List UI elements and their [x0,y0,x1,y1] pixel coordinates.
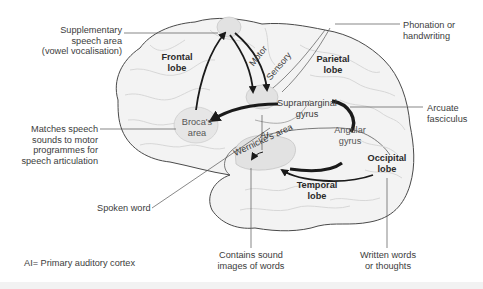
legend-ai: AI= Primary auditory cortex [24,258,135,269]
label-supramarginal-gyrus: Supramarginal gyrus [274,98,340,119]
callout-spoken-word: Spoken word [97,203,151,214]
callout-line: Arcuate [427,103,467,114]
callout-written: Written words or thoughts [352,250,424,271]
callout-line: sounds to motor [5,135,98,146]
callout-supplementary: Supplementary speech area (vowel vocalis… [40,25,122,57]
label-broca-area: Broca's area [172,117,222,138]
callout-line: Written words [352,250,424,261]
label-frontal-lobe: Frontal lobe [152,52,202,73]
label-occipital-lobe: Occipital lobe [362,153,412,174]
callout-line: Phonation or [403,20,455,31]
label-parietal-lobe: Parietal lobe [308,54,358,75]
callout-line: programmes for [5,145,98,156]
callout-line: Matches speech [5,124,98,135]
lobe-line: Parietal [308,54,358,65]
callout-line: speech area [40,36,122,47]
callout-line: (vowel vocalisation) [40,46,122,57]
lobe-line: lobe [292,191,342,202]
callout-line: Spoken word [97,203,151,214]
area-line: Supramarginal [274,98,340,109]
callout-contains: Contains sound images of words [211,250,291,271]
area-line: area [172,128,222,139]
callout-line: or thoughts [352,261,424,272]
footer-band [0,282,483,289]
callout-matches: Matches speech sounds to motor programme… [5,124,98,166]
callout-line: Contains sound [211,250,291,261]
callout-arcuate: Arcuate fasciculus [427,103,467,124]
lobe-line: Occipital [362,153,412,164]
legend-text: AI= Primary auditory cortex [24,258,135,269]
lobe-line: Frontal [152,52,202,63]
area-line: gyrus [325,136,375,147]
callout-line: speech articulation [5,156,98,167]
area-line: gyrus [274,109,340,120]
callout-phonation: Phonation or handwriting [403,20,455,41]
callout-line: images of words [211,261,291,272]
lobe-line: lobe [152,63,202,74]
callout-line: fasciculus [427,114,467,125]
area-line: Broca's [172,117,222,128]
callout-line: Supplementary [40,25,122,36]
lobe-line: Temporal [292,180,342,191]
area-line: Angular [325,125,375,136]
lobe-line: lobe [308,65,358,76]
label-temporal-lobe: Temporal lobe [292,180,342,201]
brain-language-diagram: Supplementary speech area (vowel vocalis… [0,0,483,289]
lobe-line: lobe [362,164,412,175]
callout-line: handwriting [403,31,455,42]
label-angular-gyrus: Angular gyrus [325,125,375,146]
